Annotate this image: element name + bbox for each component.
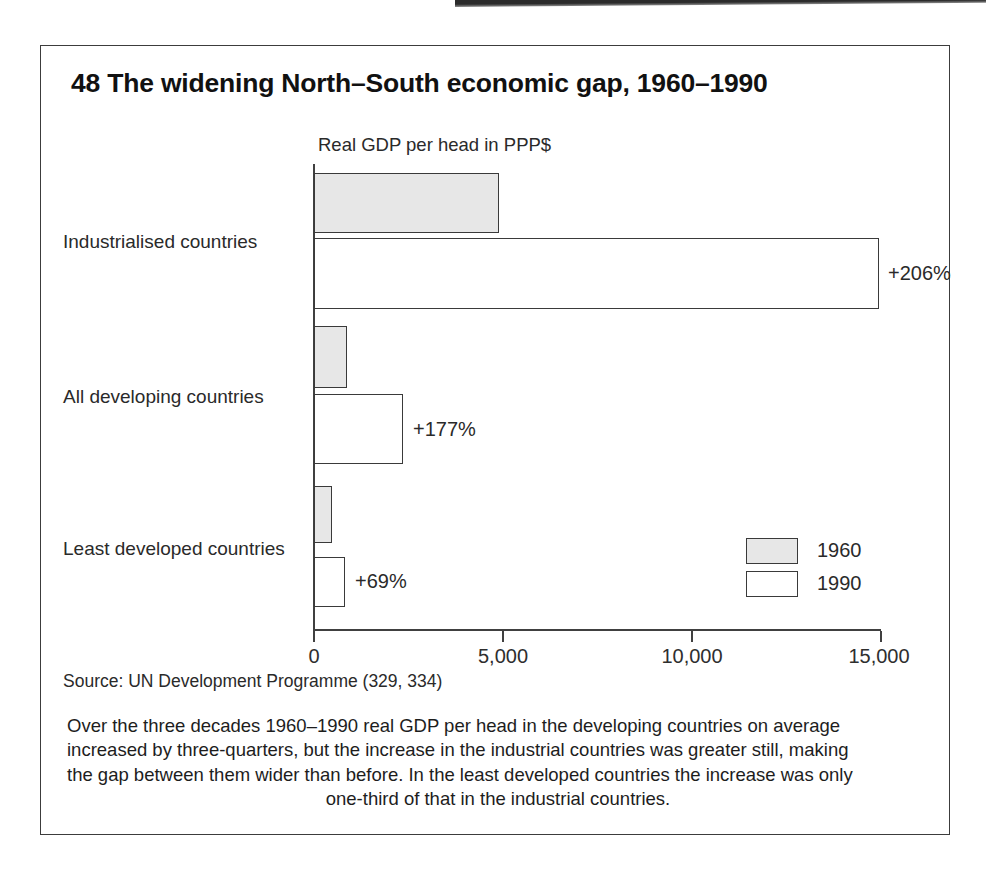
category-label-least-developed: Least developed countries: [63, 538, 285, 560]
x-tick-label-0: 0: [308, 645, 319, 668]
legend-swatch-1960: [746, 538, 798, 564]
chart-legend: 1960 1990: [746, 534, 862, 600]
bar-all-developing-1960: [314, 326, 347, 388]
legend-swatch-1990: [746, 571, 798, 597]
caption-line-3: the gap between them wider than before. …: [67, 763, 929, 787]
bar-least-developed-1960: [314, 486, 332, 543]
caption-line-2: increased by three-quarters, but the inc…: [67, 738, 929, 762]
legend-entry-1960: 1960: [746, 534, 862, 567]
x-tick-5000: [502, 631, 504, 642]
x-tick-0: [313, 631, 315, 642]
bar-note-least-developed: +69%: [355, 570, 407, 593]
caption-line-4: one-third of that in the industrial coun…: [67, 787, 929, 811]
x-tick-10000: [691, 631, 693, 642]
x-tick-15000: [880, 631, 882, 642]
bar-note-all-developing: +177%: [413, 418, 476, 441]
legend-label-1990: 1990: [817, 572, 862, 595]
legend-label-1960: 1960: [817, 539, 862, 562]
bar-industrialised-1960: [314, 173, 499, 233]
source-note: Source: UN Development Programme (329, 3…: [63, 671, 442, 692]
bar-least-developed-1990: [314, 557, 345, 607]
bar-industrialised-1990: [314, 238, 879, 309]
scan-artifact-band: [455, 0, 986, 7]
x-axis-line: [313, 629, 881, 631]
bar-note-industrialised: +206%: [888, 262, 951, 285]
legend-entry-1990: 1990: [746, 567, 862, 600]
category-label-all-developing: All developing countries: [63, 386, 264, 408]
bar-all-developing-1990: [314, 394, 403, 464]
caption-line-1: Over the three decades 1960–1990 real GD…: [67, 714, 929, 738]
x-tick-label-10000: 10,000: [661, 645, 722, 668]
figure-caption: Over the three decades 1960–1990 real GD…: [67, 714, 929, 812]
category-label-industrialised: Industrialised countries: [63, 231, 257, 253]
x-tick-label-15000: 15,000: [848, 645, 909, 668]
x-tick-label-5000: 5,000: [478, 645, 528, 668]
figure-frame: 48 The widening North–South economic gap…: [40, 45, 950, 835]
value-axis-caption: Real GDP per head in PPP$: [318, 134, 551, 156]
